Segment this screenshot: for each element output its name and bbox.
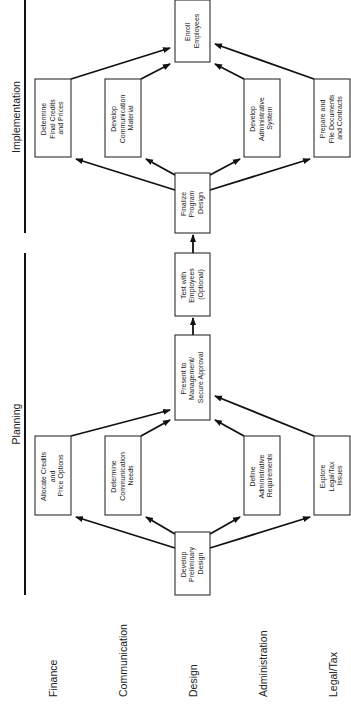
row-label-communication: Communication <box>117 624 129 697</box>
svg-text:Test with Employees: Test with Employees (Optional) <box>180 266 205 303</box>
node-enroll-employees: Enroll Employees <box>175 0 210 62</box>
edge-final-credits-to-enroll <box>71 48 170 79</box>
node-develop-preliminary-design: Develop Preliminary Design <box>175 532 210 595</box>
node-explore-legal-tax: Explore Legal/Tax Issues <box>314 436 350 515</box>
edge-prelim-to-admin-req <box>210 517 240 534</box>
node-finalize-program-design: Finalize Program Design <box>175 173 210 233</box>
edge-prelim-to-comm-needs <box>146 517 175 534</box>
flow-diagram: Implementation Planning Finance Communic… <box>0 0 351 707</box>
phase-label-planning: Planning <box>10 403 22 444</box>
row-label-design: Design <box>187 664 199 697</box>
svg-text:Finalize Program D: Finalize Program Design <box>180 189 205 218</box>
edge-finalize-to-admin-system <box>210 159 240 175</box>
row-label-finance: Finance <box>47 659 59 697</box>
node-allocate-credits: Allocate Credits and Price Options <box>35 436 71 515</box>
phase-label-implementation: Implementation <box>10 81 22 153</box>
edge-prepare-docs-to-enroll <box>215 44 314 79</box>
node-prepare-file-documents: Prepare and File Documents and Contracts <box>314 79 350 157</box>
edge-prelim-to-legal <box>210 517 310 548</box>
node-test-with-employees: Test with Employees (Optional) <box>175 253 210 316</box>
edge-admin-req-to-present <box>215 420 244 436</box>
edge-finalize-to-comm-material <box>146 159 175 175</box>
node-determine-communication-needs: Determine Communication Needs <box>105 436 141 515</box>
node-present-to-management: Present to Management/ Secure Approval <box>175 335 210 420</box>
edge-comm-material-to-enroll <box>141 64 170 79</box>
node-determine-final-credits: Determine Final Credits and Prices <box>35 79 71 157</box>
row-label-legal-tax: Legal/Tax <box>327 651 339 697</box>
edge-finalize-to-prepare-docs <box>210 159 310 190</box>
edge-allocate-to-present <box>71 410 170 436</box>
svg-text:Determine Final Credits: Determine Final Credits and Prices <box>40 97 64 138</box>
svg-text:Prepare and File Documen: Prepare and File Documents and Contracts <box>319 93 343 144</box>
edge-finalize-to-final-credits <box>76 159 175 190</box>
row-label-administration: Administration <box>257 630 269 697</box>
node-define-administrative-requirements: Define Administrative Requirements <box>244 436 280 515</box>
edge-comm-needs-to-present <box>141 420 170 436</box>
edge-admin-system-to-enroll <box>215 64 244 79</box>
node-develop-communication-material: Develop Communication Material <box>105 79 141 157</box>
node-develop-administrative-system: Develop Administrative System <box>244 79 280 157</box>
edge-prelim-to-allocate <box>76 517 175 548</box>
edge-legal-to-present <box>215 396 314 436</box>
